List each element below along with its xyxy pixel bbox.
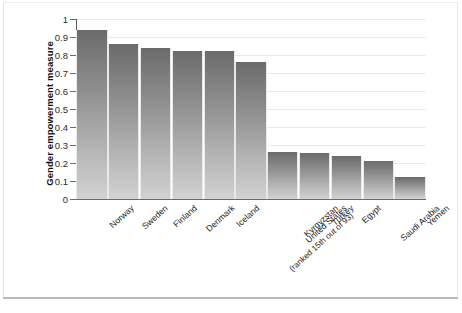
x-axis-tick-label: Sweden (140, 203, 170, 232)
x-axis-tick-label-text: Iceland (234, 203, 261, 229)
x-axis-tick-label-text: Finland (171, 203, 199, 229)
x-axis-tick-label-text: Norway (107, 203, 135, 230)
x-axis-tick-label: Egypt (360, 203, 383, 226)
x-axis-tick-label: Finland (171, 203, 199, 230)
x-axis-tick-label: Iceland (234, 203, 262, 229)
chart-figure: 10.90.80.70.60.50.40.30.20.10 Gender emp… (0, 0, 462, 313)
x-axis-tick-label-text: Denmark (204, 203, 237, 234)
x-axis-tick-label-text: Sweden (140, 203, 170, 231)
x-axis-tick-label-text: Egypt (360, 203, 383, 225)
x-axis-tick-labels: NorwaySwedenFinlandDenmarkIcelandUnited … (0, 0, 462, 313)
x-axis-tick-label: Denmark (204, 203, 237, 234)
x-axis-tick-label: Norway (107, 203, 136, 230)
